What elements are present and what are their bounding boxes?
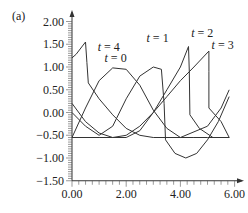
y-axis-arrow-icon xyxy=(70,10,75,17)
curve-t4 xyxy=(72,42,229,138)
x-tick-label: 2.00 xyxy=(116,187,137,201)
y-tick-label: 1.00 xyxy=(43,60,64,74)
y-tick-label: −1.50 xyxy=(36,174,64,188)
curves xyxy=(72,42,229,158)
line-chart: 2.001.501.000.500.00−0.50−1.00−1.500.002… xyxy=(0,0,248,213)
y-tick-label: 2.00 xyxy=(43,15,64,29)
curve-labels: t = 4t = 0t = 1t = 2t = 3 xyxy=(98,26,234,65)
curve-t1 xyxy=(72,67,229,158)
curve-label: t = 2 xyxy=(191,26,213,40)
x-tick-label: 6.00 xyxy=(224,187,245,201)
curve-label: t = 3 xyxy=(212,38,234,52)
y-tick-label: 1.50 xyxy=(43,37,64,51)
y-tick-label: −1.00 xyxy=(36,151,64,165)
x-tick-label: 0.00 xyxy=(62,187,83,201)
x-axis-arrow-icon xyxy=(237,178,244,183)
y-tick-label: 0.50 xyxy=(43,83,64,97)
y-tick-label: 0.00 xyxy=(43,106,64,120)
y-tick-label: −0.50 xyxy=(36,128,64,142)
curve-t2 xyxy=(72,47,229,138)
curve-label: t = 1 xyxy=(147,31,169,45)
x-tick-label: 4.00 xyxy=(170,187,191,201)
curve-label: t = 0 xyxy=(105,51,127,65)
